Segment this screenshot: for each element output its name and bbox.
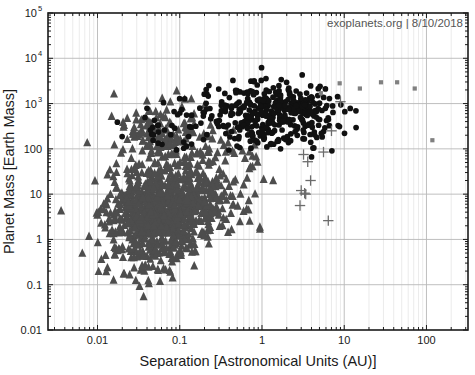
data-point-circle: [214, 119, 220, 125]
data-point-circle: [254, 138, 260, 144]
data-point-circle: [300, 117, 306, 123]
data-point-circle: [250, 89, 256, 95]
data-point-circle: [216, 86, 222, 92]
data-point-circle: [292, 129, 298, 135]
y-tick-label: 0.1: [27, 279, 42, 291]
data-point-circle: [254, 123, 260, 129]
data-point-circle: [244, 125, 250, 131]
data-point-circle: [142, 115, 148, 121]
data-point-circle: [152, 117, 158, 123]
data-point-circle: [229, 129, 235, 135]
y-tick-label: 10: [25, 52, 37, 64]
data-point-circle: [353, 125, 359, 131]
data-point-circle: [280, 118, 286, 124]
data-point-circle: [144, 105, 150, 111]
data-point-circle: [302, 102, 308, 108]
data-point-circle: [226, 147, 232, 153]
data-point-circle: [251, 103, 257, 109]
data-point-circle: [204, 106, 210, 112]
data-point-circle: [259, 128, 265, 134]
data-point-circle: [119, 134, 125, 140]
data-point-circle: [300, 127, 306, 133]
data-point-circle: [278, 77, 284, 83]
data-point-circle: [284, 79, 290, 85]
data-point-circle: [193, 123, 199, 129]
data-point-circle: [155, 123, 161, 129]
data-point-circle: [172, 125, 178, 131]
data-point-circle: [189, 141, 195, 147]
data-point-square: [319, 91, 323, 95]
credit-annotation: exoplanets.org | 8/10/2018: [327, 17, 463, 29]
data-point-circle: [330, 110, 336, 116]
data-point-circle: [327, 96, 333, 102]
data-point-circle: [179, 107, 185, 113]
data-point-circle: [335, 94, 341, 100]
data-point-circle: [161, 100, 167, 106]
data-point-circle: [311, 145, 317, 151]
data-point-circle: [313, 114, 319, 120]
data-point-circle: [272, 128, 278, 134]
data-point-circle: [248, 145, 254, 151]
data-point-circle: [222, 91, 228, 97]
data-point-circle: [323, 86, 329, 92]
data-point-circle: [310, 100, 316, 106]
data-point-circle: [288, 138, 294, 144]
y-axis-title: Planet Mass [Earth Mass]: [1, 89, 17, 254]
data-point-circle: [223, 131, 229, 137]
data-point-circle: [186, 134, 192, 140]
y-tick-label: 10: [25, 98, 37, 110]
data-point-circle: [241, 103, 247, 109]
data-point-circle: [335, 123, 341, 129]
data-point-circle: [189, 112, 195, 118]
data-point-circle: [278, 146, 284, 152]
data-point-circle: [308, 83, 314, 89]
data-point-circle: [233, 103, 239, 109]
scatter-plot-figure: 0.010.11101000.010.1110100103104105Separ…: [0, 0, 475, 375]
y-tick-label: 10: [25, 7, 37, 19]
data-point-circle: [286, 117, 292, 123]
data-point-circle: [266, 89, 272, 95]
data-point-circle: [314, 135, 320, 141]
data-point-circle: [205, 93, 211, 99]
y-tick-label: 1: [36, 233, 42, 245]
data-point-circle: [342, 130, 348, 136]
data-point-circle: [258, 108, 264, 114]
data-point-circle: [316, 122, 322, 128]
data-point-circle: [317, 83, 323, 89]
data-point-circle: [276, 102, 282, 108]
data-point-circle: [228, 111, 234, 117]
data-point-circle: [151, 132, 157, 138]
data-point-circle: [322, 125, 328, 131]
data-point-circle: [321, 95, 327, 101]
data-point-circle: [301, 136, 307, 142]
data-point-circle: [326, 117, 332, 123]
plot-svg: 0.010.11101000.010.1110100103104105Separ…: [0, 0, 475, 375]
data-point-circle: [162, 127, 168, 133]
data-point-circle: [236, 111, 242, 117]
data-point-circle: [276, 138, 282, 144]
data-point-circle: [268, 142, 274, 148]
data-point-circle: [223, 124, 229, 130]
data-point-circle: [115, 119, 121, 125]
data-point-square: [395, 80, 399, 84]
data-point-circle: [259, 65, 265, 71]
data-point-square: [358, 86, 362, 90]
y-tick-label: 100: [24, 143, 42, 155]
data-point-square: [379, 80, 383, 84]
data-point-square: [413, 86, 417, 90]
x-tick-label: 1: [259, 334, 265, 346]
data-point-circle: [279, 127, 285, 133]
data-point-circle: [208, 116, 214, 122]
data-point-circle: [227, 95, 233, 101]
data-point-square: [430, 138, 434, 142]
x-axis-title: Separation [Astronomical Units (AU)]: [140, 353, 377, 369]
y-tick-label-exponent: 4: [38, 49, 42, 58]
data-point-circle: [150, 137, 156, 143]
data-point-circle: [329, 148, 335, 154]
data-point-circle: [282, 103, 288, 109]
data-point-circle: [317, 100, 323, 106]
data-point-circle: [257, 96, 263, 102]
data-point-circle: [184, 112, 190, 118]
data-point-square: [338, 81, 342, 85]
data-point-circle: [174, 147, 180, 153]
